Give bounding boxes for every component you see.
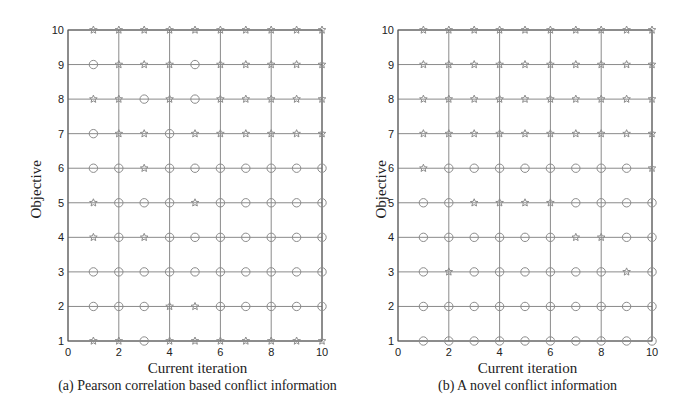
- y-tick-label: 7: [388, 128, 394, 140]
- y-tick-label: 9: [58, 59, 64, 71]
- plot-area-b: 024681012345678910: [345, 0, 691, 414]
- x-tick-label: 10: [316, 346, 328, 358]
- y-tick-label: 10: [382, 24, 394, 36]
- x-axis-label-b: Current iteration: [355, 360, 691, 377]
- y-tick-label: 5: [58, 197, 64, 209]
- y-tick-label: 8: [388, 93, 394, 105]
- y-tick-label: 6: [58, 162, 64, 174]
- y-tick-label: 3: [388, 266, 394, 278]
- y-tick-label: 3: [58, 266, 64, 278]
- x-tick-label: 8: [598, 346, 604, 358]
- x-tick-label: 10: [646, 346, 658, 358]
- y-tick-label: 2: [58, 300, 64, 312]
- y-tick-label: 8: [58, 93, 64, 105]
- y-tick-label: 9: [388, 59, 394, 71]
- axes-frame: [398, 30, 652, 341]
- x-tick-label: 2: [446, 346, 452, 358]
- y-tick-label: 7: [58, 128, 64, 140]
- x-tick-label: 6: [217, 346, 223, 358]
- caption-b: (b) A novel conflict information: [355, 378, 691, 394]
- plot-area-a: 024681012345678910: [0, 0, 345, 414]
- x-tick-label: 6: [547, 346, 553, 358]
- chart-panel-b: 024681012345678910 Objective Current ite…: [345, 0, 690, 414]
- x-axis-label-a: Current iteration: [25, 360, 370, 377]
- caption-a: (a) Pearson correlation based conflict i…: [25, 378, 370, 394]
- y-tick-label: 10: [52, 24, 64, 36]
- y-axis-label-a: Objective: [28, 159, 45, 219]
- x-tick-label: 0: [65, 346, 71, 358]
- y-tick-label: 4: [58, 231, 64, 243]
- y-tick-label: 1: [58, 335, 64, 347]
- y-tick-label: 1: [388, 335, 394, 347]
- x-tick-label: 8: [268, 346, 274, 358]
- x-tick-label: 4: [167, 346, 173, 358]
- x-tick-label: 0: [395, 346, 401, 358]
- y-tick-label: 4: [388, 231, 394, 243]
- chart-panel-a: 024681012345678910 Objective Current ite…: [0, 0, 345, 414]
- axes-frame: [68, 30, 322, 341]
- y-axis-label-b: Objective: [373, 159, 390, 219]
- y-tick-label: 2: [388, 300, 394, 312]
- x-tick-label: 4: [497, 346, 503, 358]
- x-tick-label: 2: [116, 346, 122, 358]
